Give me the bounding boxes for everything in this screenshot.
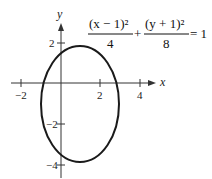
x-axis-label: x xyxy=(159,75,166,89)
y-axis-arrow-icon xyxy=(58,23,64,31)
y-tick-label: −4 xyxy=(46,159,58,171)
eq-term2-denominator: 8 xyxy=(163,36,170,51)
x-tick-label: −2 xyxy=(15,89,27,101)
x-axis-arrow-icon xyxy=(148,80,156,86)
y-axis-label: y xyxy=(56,7,63,21)
x-tick-label: 4 xyxy=(137,89,143,101)
eq-term1-denominator: 4 xyxy=(107,36,114,51)
eq-term2-numerator: (y + 1)² xyxy=(145,16,184,31)
equation: (x − 1)² 4 + (y + 1)² 8 = 1 xyxy=(88,16,207,51)
eq-equals: = 1 xyxy=(190,26,207,41)
ellipse-curve xyxy=(41,46,119,162)
x-tick-label: 2 xyxy=(97,89,103,101)
eq-plus: + xyxy=(134,26,141,41)
ellipse-graph: −2 2 4 2 −2 −4 x y (x − 1)² 4 + (y + 1)²… xyxy=(0,0,212,179)
y-tick-label: −2 xyxy=(46,118,58,130)
eq-term1-numerator: (x − 1)² xyxy=(89,16,128,31)
y-tick-label: 2 xyxy=(49,37,55,49)
